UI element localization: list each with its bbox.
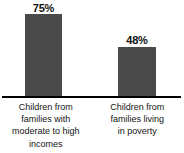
category-label-1-line-2: families with	[0, 113, 92, 125]
bar-children-moderate-to-high-income	[25, 14, 62, 96]
category-labels: Children from families with moderate to …	[0, 99, 183, 153]
bar-children-in-poverty	[118, 47, 156, 96]
category-label-1-line-3: moderate to high	[0, 125, 92, 137]
category-label-2-line-2: families living	[92, 113, 184, 125]
axis-baseline	[2, 96, 181, 98]
category-label-1-line-4: incomes	[0, 138, 92, 150]
bar-chart: 75% 48% Children from families with mode…	[0, 0, 183, 153]
category-label-1: Children from families with moderate to …	[0, 99, 92, 153]
category-label-1-line-1: Children from	[0, 101, 92, 113]
bar-value-label-1: 75%	[25, 2, 62, 14]
category-label-2: Children from families living in poverty	[92, 99, 184, 153]
category-label-2-line-1: Children from	[92, 101, 184, 113]
category-label-2-line-3: in poverty	[92, 125, 184, 137]
bar-value-label-2: 48%	[118, 34, 156, 46]
plot-area: 75% 48%	[0, 0, 183, 99]
